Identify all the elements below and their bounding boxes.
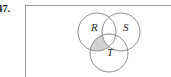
- venn-diagram-svg: R S T: [76, 8, 142, 77]
- figure-page: 47.: [0, 0, 171, 77]
- venn-diagram: R S T: [26, 6, 171, 77]
- label-set-s: S: [123, 21, 129, 33]
- figure-frame: R S T: [25, 5, 171, 77]
- shaded-region-r-and-t-not-s: [76, 8, 142, 77]
- label-set-t: T: [107, 46, 114, 58]
- problem-number: 47.: [0, 2, 10, 15]
- label-set-r: R: [90, 21, 98, 33]
